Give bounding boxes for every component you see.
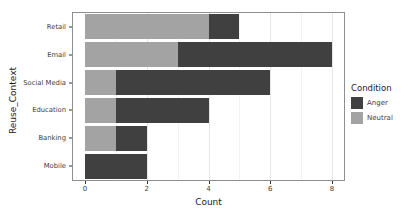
x-tick-mark bbox=[332, 181, 333, 184]
x-tick-label-0: 0 bbox=[83, 185, 87, 193]
x-tick-mark bbox=[147, 181, 148, 184]
x-tick-label-2: 2 bbox=[145, 185, 149, 193]
legend-swatch-neutral bbox=[351, 112, 363, 124]
bar-segment-retail-anger bbox=[209, 14, 240, 39]
x-axis-title: Count bbox=[72, 197, 345, 207]
plot-panel bbox=[72, 12, 345, 181]
bar-row-education bbox=[85, 98, 209, 123]
legend-key-neutral: Neutral bbox=[351, 112, 393, 124]
legend-label-anger: Anger bbox=[367, 99, 388, 107]
bar-row-retail bbox=[85, 14, 239, 39]
x-tick-label-8: 8 bbox=[330, 185, 334, 193]
legend: Condition Anger Neutral bbox=[351, 83, 393, 127]
bars-layer bbox=[73, 13, 344, 180]
legend-title: Condition bbox=[351, 83, 393, 93]
bar-segment-email-anger bbox=[178, 42, 332, 67]
bar-segment-mobile-anger bbox=[85, 154, 147, 179]
legend-key-anger: Anger bbox=[351, 97, 393, 109]
legend-label-neutral: Neutral bbox=[367, 114, 393, 122]
x-tick-label-4: 4 bbox=[206, 185, 210, 193]
bar-row-banking bbox=[85, 126, 147, 151]
x-tick-mark bbox=[209, 181, 210, 184]
chart-figure: Reuse_Context RetailEmailSocial MediaEdu… bbox=[0, 0, 411, 217]
y-axis-label-education: Education bbox=[32, 106, 66, 114]
y-axis-label-email: Email bbox=[47, 51, 66, 59]
bar-segment-social-media-anger bbox=[116, 70, 270, 95]
y-axis-label-mobile: Mobile bbox=[44, 162, 66, 170]
bar-segment-retail-neutral bbox=[85, 14, 209, 39]
y-axis: RetailEmailSocial MediaEducationBankingM… bbox=[0, 12, 72, 181]
y-axis-label-social-media: Social Media bbox=[23, 79, 66, 87]
bar-segment-education-neutral bbox=[85, 98, 116, 123]
x-axis: 02468 bbox=[72, 181, 345, 197]
bar-row-email bbox=[85, 42, 332, 67]
legend-swatch-anger bbox=[351, 97, 363, 109]
bar-segment-banking-neutral bbox=[85, 126, 116, 151]
bar-row-social-media bbox=[85, 70, 270, 95]
bar-segment-banking-anger bbox=[116, 126, 147, 151]
bar-segment-education-anger bbox=[116, 98, 209, 123]
y-axis-label-retail: Retail bbox=[47, 23, 66, 31]
bar-segment-social-media-neutral bbox=[85, 70, 116, 95]
x-tick-mark bbox=[270, 181, 271, 184]
x-tick-label-6: 6 bbox=[268, 185, 272, 193]
x-tick-mark bbox=[85, 181, 86, 184]
bar-segment-email-neutral bbox=[85, 42, 178, 67]
bar-row-mobile bbox=[85, 154, 147, 179]
y-axis-label-banking: Banking bbox=[38, 134, 66, 142]
